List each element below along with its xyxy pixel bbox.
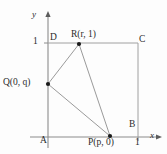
corner-label-c: C — [139, 35, 145, 45]
point-label-q: Q(0, q) — [3, 78, 30, 88]
corner-label-a: A — [40, 136, 47, 146]
geometry-figure: y x 1 1 A B C D R(r, 1) Q(0, q) P(p, 0) — [0, 0, 167, 154]
point-r-marker — [77, 42, 81, 46]
triangle-pqr — [48, 44, 110, 136]
x-axis-arrow-icon — [156, 134, 162, 139]
x-axis-label: x — [150, 131, 154, 140]
point-label-p: P(p, 0) — [88, 138, 114, 148]
point-label-r: R(r, 1) — [71, 30, 96, 40]
unit-square — [48, 43, 138, 137]
corner-label-d: D — [50, 33, 57, 43]
y-axis-label: y — [32, 10, 36, 19]
corner-label-b: B — [129, 120, 135, 130]
x-tick-label-1: 1 — [135, 138, 140, 148]
y-tick-label-1: 1 — [33, 37, 38, 47]
y-axis-arrow-icon — [45, 11, 50, 17]
point-q-marker — [46, 82, 50, 86]
